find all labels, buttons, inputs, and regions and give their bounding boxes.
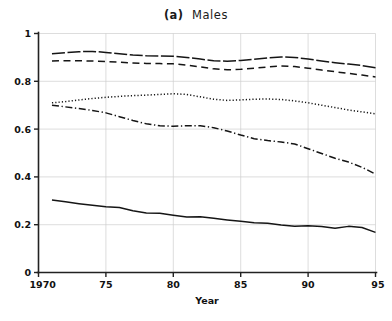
x-tick-label: 75 [99, 279, 112, 290]
y-tick-label: 1 [24, 28, 31, 39]
axis-labels-group: 00.20.40.60.8119707580859095Year [14, 28, 384, 306]
y-tick-label: 0.4 [14, 171, 31, 182]
x-tick-label: 90 [301, 279, 315, 290]
axes-group [34, 33, 377, 278]
series-line-4 [52, 105, 376, 174]
x-tick-label: 1970 [30, 279, 57, 290]
chart-figure: (a) Males 00.20.40.60.8119707580859095Ye… [0, 0, 392, 321]
y-tick-label: 0.2 [14, 219, 31, 230]
y-tick-label: 0.6 [14, 124, 31, 135]
gridlines [39, 34, 376, 273]
x-tick-label: 80 [167, 279, 181, 290]
plot-area: 00.20.40.60.8119707580859095Year [0, 0, 392, 321]
y-tick-label: 0 [24, 267, 31, 278]
x-tick-label: 95 [371, 279, 384, 290]
series-line-5 [52, 200, 376, 232]
series-group [52, 51, 376, 232]
x-axis-title: Year [194, 295, 219, 306]
series-line-1 [52, 51, 376, 67]
series-line-3 [52, 94, 376, 114]
series-line-2 [52, 61, 376, 77]
y-tick-label: 0.8 [14, 76, 31, 87]
x-tick-label: 85 [234, 279, 247, 290]
